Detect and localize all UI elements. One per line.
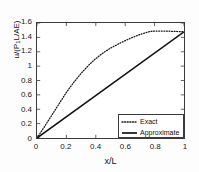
- y-tick-label: 0.2: [21, 120, 32, 128]
- y-tick-label: 1: [28, 62, 32, 70]
- y-tick-label: 1.6: [21, 18, 32, 26]
- chart-legend: Exact Approximate: [118, 114, 184, 138]
- legend-label-exact: Exact: [140, 118, 158, 126]
- y-tick-label: 1.4: [21, 33, 32, 41]
- legend-swatch-dotted-icon: [121, 118, 138, 126]
- x-tick-label: 0.2: [60, 143, 71, 151]
- x-tick-label: 0: [34, 143, 38, 151]
- legend-item-exact: Exact: [121, 117, 181, 127]
- y-axis-title: u/(P1L/AE): [12, 0, 23, 95]
- y-tick-label: 0.6: [21, 91, 32, 99]
- y-tick-label: 0: [28, 135, 32, 143]
- legend-swatch-solid-icon: [121, 129, 138, 137]
- legend-label-approximate: Approximate: [140, 129, 179, 137]
- y-tick-label: 0.4: [21, 106, 32, 114]
- chart-figure: 00.20.40.60.811.21.41.6 u/(P1L/AE) 00.20…: [0, 0, 199, 172]
- x-tick-label: 0.6: [120, 143, 131, 151]
- x-tick-label: 0.4: [90, 143, 101, 151]
- y-tick-label: 0.8: [21, 77, 32, 85]
- x-tick-label: 0.8: [150, 143, 161, 151]
- x-tick-label: 1: [183, 143, 187, 151]
- x-axis-title: x/L: [36, 156, 185, 166]
- y-tick-label: 1.2: [21, 47, 32, 55]
- legend-item-approximate: Approximate: [121, 128, 181, 138]
